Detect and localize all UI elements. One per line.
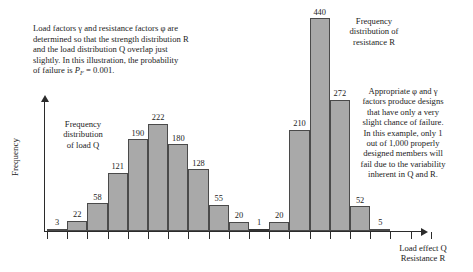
x-axis-tick <box>148 232 149 239</box>
bar-value-label: 128 <box>182 159 214 168</box>
x-axis-tick <box>168 232 169 239</box>
x-axis-tick <box>47 232 48 239</box>
lrfd-histogram-figure: Load factors γ and resistance factors φ … <box>0 0 473 272</box>
x-axis-tick <box>370 232 371 239</box>
histogram-bar <box>47 229 67 231</box>
histogram-bar <box>108 173 128 232</box>
bar-value-label: 222 <box>142 113 174 122</box>
histogram-bar <box>310 18 330 231</box>
x-axis-tick <box>350 232 351 239</box>
bar-value-label: 180 <box>162 134 194 143</box>
x-axis-tick <box>289 232 290 239</box>
bar-value-label: 5 <box>364 218 396 227</box>
histogram-bar <box>330 100 350 232</box>
histogram-bar <box>269 222 289 232</box>
histogram-bar <box>249 229 269 231</box>
x-axis-tick <box>209 232 210 239</box>
x-axis-tick <box>390 232 391 239</box>
bar-value-label: 440 <box>304 8 336 17</box>
x-axis-tick <box>431 232 432 239</box>
histogram-bar <box>289 130 309 232</box>
x-axis-tick <box>330 232 331 239</box>
histogram-bar <box>87 203 107 231</box>
x-axis-tick <box>310 232 311 239</box>
x-axis-tick <box>87 232 88 239</box>
histogram-bar <box>128 139 148 231</box>
histogram-bar <box>168 144 188 231</box>
x-axis-tick <box>411 232 412 239</box>
x-axis-tick <box>67 232 68 239</box>
histogram-bar <box>67 221 87 232</box>
histogram-bar <box>370 229 390 231</box>
x-axis-tick <box>229 232 230 239</box>
histogram-bars: 322581211902221801285520120210440272525 <box>0 0 473 272</box>
x-axis-tick <box>188 232 189 239</box>
bar-value-label: 55 <box>203 194 235 203</box>
bar-value-label: 52 <box>344 196 376 205</box>
bar-value-label: 272 <box>324 89 356 98</box>
x-axis-tick <box>128 232 129 239</box>
x-axis-tick <box>249 232 250 239</box>
x-axis-tick <box>108 232 109 239</box>
x-axis-tick <box>269 232 270 239</box>
